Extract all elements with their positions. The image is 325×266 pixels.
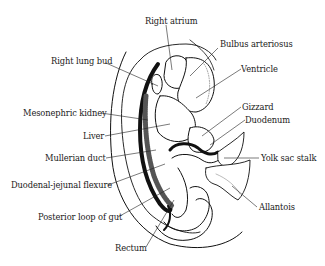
- label-liver: Liver: [83, 132, 104, 140]
- label-duodenal-jejunal-flexure: Duodenal-jejunal flexure: [11, 181, 112, 189]
- label-ventricle: Ventricle: [241, 65, 278, 73]
- label-yolk-sac-stalk: Yolk sac stalk: [261, 154, 316, 162]
- label-duodenum: Duodenum: [245, 116, 290, 124]
- yolk-sac-stalk-shape: [218, 132, 244, 166]
- label-gizzard: Gizzard: [242, 103, 274, 111]
- right-lung-bud-shape: [152, 74, 163, 94]
- label-mesonephric-kidney: Mesonephric kidney: [23, 109, 107, 117]
- label-mullerian-duct: Mullerian duct: [45, 154, 106, 162]
- posterior-gut-loop: [172, 168, 188, 217]
- label-right-lung-bud: Right lung bud: [51, 57, 112, 65]
- allantois-shape: [205, 160, 250, 200]
- label-allantois: Allantois: [259, 203, 295, 211]
- gizzard-shape: [188, 127, 214, 153]
- label-bulbus-arteriosus: Bulbus arteriosus: [220, 40, 293, 48]
- label-posterior-loop-of-gut: Posterior loop of gut: [38, 213, 122, 221]
- label-rectum: Rectum: [115, 244, 147, 252]
- label-right-atrium: Right atrium: [145, 17, 197, 25]
